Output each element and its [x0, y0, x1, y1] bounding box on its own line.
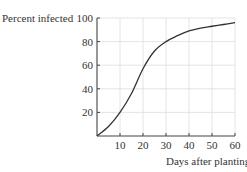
y-axis-label: Percent infected [2, 12, 74, 24]
tick-labels: 10203040506020406080100 [77, 12, 242, 151]
x-tick-label: 40 [184, 139, 196, 151]
chart: 10203040506020406080100 Percent infected… [0, 0, 247, 172]
x-tick-label: 10 [115, 139, 127, 151]
x-tick-label: 50 [207, 139, 219, 151]
y-tick-label: 40 [82, 83, 94, 95]
grid-lines [97, 18, 235, 136]
y-tick-label: 20 [82, 106, 94, 118]
x-tick-label: 60 [230, 139, 242, 151]
y-tick-label: 100 [77, 12, 94, 24]
x-tick-label: 20 [138, 139, 150, 151]
y-tick-label: 60 [82, 59, 94, 71]
x-tick-label: 30 [161, 139, 173, 151]
x-axis-label: Days after planting [166, 155, 247, 167]
y-tick-label: 80 [82, 36, 94, 48]
